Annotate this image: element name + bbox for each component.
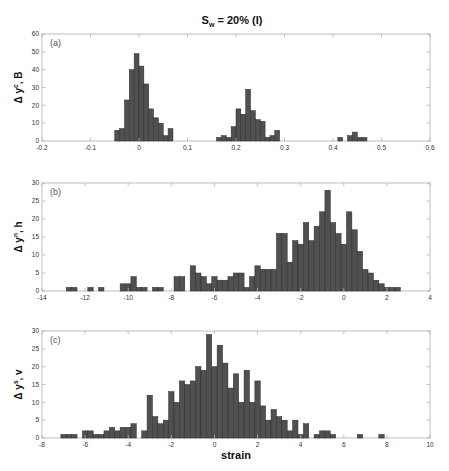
histogram-bar (260, 121, 265, 141)
histogram-bar (93, 434, 98, 438)
histogram-bar (325, 431, 330, 438)
panel-label: (b) (50, 187, 61, 197)
histogram-bar (72, 287, 77, 291)
histogram-bar (134, 54, 139, 141)
histogram-bar (109, 427, 114, 438)
x-tick-label: -4 (125, 441, 131, 448)
y-axis-label: Δ ys, v (12, 369, 24, 400)
histogram-bar (221, 136, 226, 141)
x-tick-label: 0.6 (425, 144, 434, 151)
histogram-figure: Sw = 20% (I) -0.2-0.100.10.20.30.40.50.6… (0, 0, 449, 471)
histogram-bar (149, 109, 154, 141)
histogram-bar (142, 287, 147, 291)
histogram-bar (330, 223, 335, 291)
histogram-bar (179, 381, 184, 438)
histogram-bar (357, 251, 362, 291)
histogram-bar (314, 226, 319, 291)
y-tick-label: 30 (32, 84, 40, 91)
histogram-bar (120, 427, 125, 438)
y-tick-label: 0 (35, 287, 39, 294)
histogram-bar (233, 374, 238, 438)
histogram-bar (293, 420, 298, 438)
histogram-bar (330, 434, 335, 438)
histogram-bar (266, 269, 271, 291)
histogram-bar (265, 137, 270, 141)
x-tick-label: 2 (256, 441, 260, 448)
x-tick-label: -14 (37, 294, 47, 301)
histogram-bar (233, 273, 238, 291)
histogram-bar (336, 233, 341, 291)
histogram-bar (136, 287, 141, 291)
y-tick-label: 40 (32, 66, 40, 73)
y-tick-label: 10 (32, 251, 40, 258)
x-tick-label: 0 (137, 144, 141, 151)
histogram-bar (357, 434, 362, 438)
histogram-bar (217, 137, 222, 141)
histogram-bar (260, 269, 265, 291)
histogram-bar (201, 277, 206, 291)
histogram-bar (206, 284, 211, 291)
x-tick-label: -6 (82, 441, 88, 448)
histogram-bar (104, 431, 109, 438)
y-tick-label: 25 (32, 197, 40, 204)
histogram-bar (395, 287, 400, 291)
histogram-bar (144, 84, 149, 141)
histogram-bar (270, 136, 275, 141)
x-tick-label: 0.2 (231, 144, 240, 151)
histogram-bar (124, 100, 129, 141)
histogram-bar (282, 420, 287, 438)
histogram-bar (115, 431, 120, 438)
histogram-bar (320, 212, 325, 291)
histogram-bar (255, 381, 260, 438)
histogram-bar (223, 280, 228, 291)
histogram-bar (362, 137, 367, 141)
y-tick-label: 10 (32, 119, 40, 126)
histogram-bar (185, 385, 190, 439)
histogram-bar (255, 120, 260, 141)
histogram-bar (206, 335, 211, 438)
y-tick-label: 30 (32, 327, 40, 334)
histogram-bar (320, 431, 325, 438)
histogram-bar (239, 273, 244, 291)
histogram-bar (154, 118, 159, 141)
histogram-bar (231, 127, 236, 141)
histogram-bar (228, 277, 233, 291)
y-tick-label: 10 (32, 399, 40, 406)
histogram-bar (196, 367, 201, 438)
histogram-bar (325, 190, 330, 291)
x-tick-label: -0.1 (85, 144, 97, 151)
x-tick-label: -0.2 (36, 144, 48, 151)
histogram-bar (99, 287, 104, 291)
histogram-bar (363, 269, 368, 291)
histogram-bar (352, 132, 357, 141)
histogram-bar (163, 420, 168, 438)
histogram-bar (352, 230, 357, 291)
histogram-bar (271, 269, 276, 291)
histogram-bar (314, 434, 319, 438)
x-tick-label: -8 (168, 294, 174, 301)
histogram-bar (346, 212, 351, 291)
histogram-bar (379, 284, 384, 291)
panel-a-histogram: -0.2-0.100.10.20.30.40.50.60102030405060… (12, 30, 435, 151)
y-tick-label: 5 (35, 269, 39, 276)
x-tick-label: -8 (39, 441, 45, 448)
histogram-bar (368, 273, 373, 291)
x-tick-label: -2 (298, 294, 304, 301)
histogram-bar (61, 434, 66, 438)
y-tick-label: 0 (35, 434, 39, 441)
x-tick-label: 0.1 (183, 144, 192, 151)
histogram-bar (190, 266, 195, 291)
panel-c-histogram: -8-6-4-20246810051015202530(c)Δ ys, v (12, 327, 434, 448)
histogram-bar (115, 130, 120, 141)
histogram-bar (379, 434, 384, 438)
x-tick-label: 4 (428, 294, 432, 301)
histogram-bar (249, 277, 254, 291)
y-tick-label: 25 (32, 345, 40, 352)
histogram-bar (72, 434, 77, 438)
y-tick-label: 50 (32, 48, 40, 55)
histogram-bar (169, 392, 174, 438)
histogram-bar (217, 345, 222, 438)
x-tick-label: 10 (426, 441, 434, 448)
histogram-bar (287, 262, 292, 291)
histogram-bar (190, 381, 195, 438)
